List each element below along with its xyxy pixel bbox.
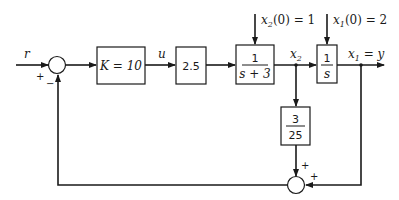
plant2-numerator: 1 — [324, 52, 331, 65]
plant1-numerator: 1 — [252, 52, 259, 65]
output-label: x1 = y — [348, 47, 385, 63]
gain2-block-label: 2.5 — [182, 60, 200, 73]
plant2-denominator: s — [324, 67, 330, 81]
sum1-minus-sign: − — [46, 78, 54, 89]
state2-label: x2 — [290, 47, 302, 63]
gain-block-label: K = 10 — [99, 59, 142, 73]
block-diagram: r + − K = 10 u 2.5 1 s + 3 x2(0) = 1 x2 … — [0, 0, 399, 200]
feedback-denominator: 25 — [289, 129, 303, 142]
sum2-plus-right: + — [310, 171, 318, 182]
summing-junction-2 — [288, 177, 305, 194]
feedback-numerator: 3 — [292, 113, 299, 126]
input-label: r — [24, 47, 31, 61]
control-label: u — [158, 47, 166, 61]
main-feedback-line — [58, 75, 287, 185]
sum2-plus-top: + — [301, 160, 309, 171]
ic1-label: x1(0) = 2 — [333, 13, 387, 29]
sum1-plus-sign: + — [36, 71, 44, 82]
summing-junction-1 — [49, 57, 66, 74]
ic2-label: x2(0) = 1 — [261, 13, 315, 29]
plant1-denominator: s + 3 — [239, 67, 271, 81]
